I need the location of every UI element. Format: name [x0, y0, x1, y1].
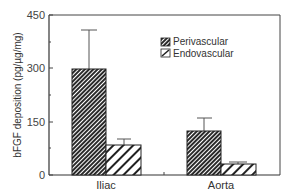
- bar-aorta-perivascular: [187, 131, 221, 175]
- category-label-aorta: Aorta: [208, 179, 235, 191]
- bar-iliac-endovascular: [106, 145, 141, 175]
- ytick-label-450: 450: [27, 9, 45, 21]
- legend-label-perivascular: Perivascular: [173, 36, 229, 47]
- category-label-iliac: Iliac: [96, 179, 116, 191]
- legend-label-endovascular: Endovascular: [173, 48, 234, 59]
- legend-swatch-perivascular: [161, 38, 170, 46]
- bar-chart: 0 150 300 450 bFGF deposition (pg/µg/mg)…: [0, 0, 291, 193]
- ytick-label-300: 300: [27, 62, 45, 74]
- ytick-label-0: 0: [39, 169, 45, 181]
- bar-group-aorta: [187, 118, 256, 175]
- ytick-label-150: 150: [27, 116, 45, 128]
- bar-group-iliac: [72, 30, 141, 175]
- legend: Perivascular Endovascular: [161, 36, 234, 59]
- y-axis-title: bFGF deposition (pg/µg/mg): [12, 32, 23, 157]
- bar-aorta-endovascular: [221, 164, 256, 175]
- bar-iliac-perivascular: [72, 69, 106, 175]
